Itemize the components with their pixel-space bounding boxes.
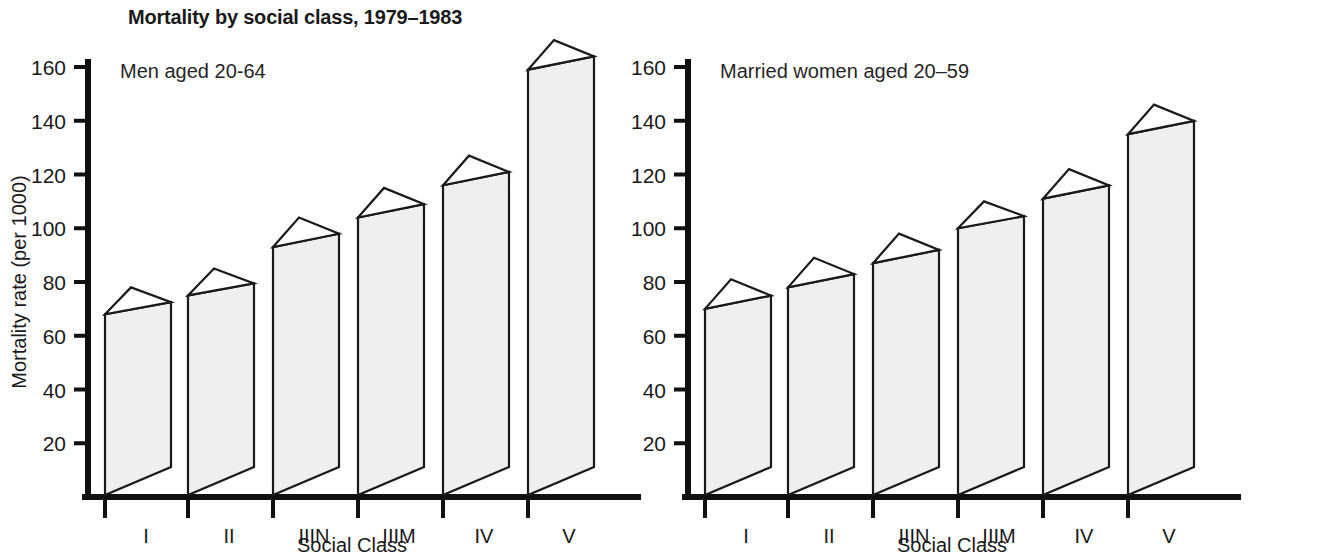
bar-front-face (528, 56, 594, 495)
bar-IV (443, 156, 509, 495)
bar-IIIM (358, 188, 424, 495)
x-axis-title: Social Class (297, 534, 407, 556)
bar-front-face (1043, 185, 1109, 495)
y-tick-label: 80 (43, 271, 66, 294)
y-tick-label: 40 (643, 379, 666, 402)
bar-front-face (105, 302, 171, 495)
bar-II (188, 269, 254, 495)
panel-men: Men aged 20-6416014012010080604020IIIIII… (31, 40, 638, 556)
bar-front-face (958, 216, 1024, 495)
mortality-figure: Mortality by social class, 1979–1983 Men… (0, 0, 1318, 556)
y-tick-label: 140 (31, 110, 66, 133)
x-category-label-I: I (743, 525, 749, 547)
bar-V (528, 40, 594, 495)
bar-front-face (1128, 121, 1194, 495)
y-tick-label: 160 (31, 56, 66, 79)
bar-IIIM (958, 201, 1024, 495)
x-axis-title: Social Class (897, 534, 1007, 556)
y-tick-label: 40 (43, 379, 66, 402)
bar-IIIN (873, 234, 939, 495)
chart-canvas: Men aged 20-6416014012010080604020IIIIII… (0, 0, 1318, 556)
panel-married: Married women aged 20–591601401201008060… (631, 56, 1238, 556)
bar-front-face (873, 250, 939, 495)
bar-front-face (358, 204, 424, 495)
x-category-label-V: V (1162, 525, 1176, 547)
y-tick-label: 20 (643, 432, 666, 455)
y-tick-label: 100 (31, 217, 66, 240)
x-category-label-II: II (223, 525, 234, 547)
bar-IV (1043, 169, 1109, 495)
y-axis-title: Mortality rate (per 1000) (8, 175, 30, 388)
y-tick-label: 140 (631, 110, 666, 133)
x-category-label-I: I (143, 525, 149, 547)
bar-I (705, 279, 771, 495)
y-tick-label: 120 (631, 164, 666, 187)
y-tick-label: 20 (43, 432, 66, 455)
bar-front-face (443, 172, 509, 495)
y-tick-label: 60 (643, 325, 666, 348)
y-tick-label: 60 (43, 325, 66, 348)
bar-IIIN (273, 218, 339, 496)
bar-II (788, 258, 854, 495)
x-category-label-IV: IV (1075, 525, 1095, 547)
y-tick-label: 80 (643, 271, 666, 294)
bar-front-face (705, 296, 771, 495)
x-category-label-V: V (562, 525, 576, 547)
bar-I (105, 287, 171, 495)
bar-front-face (188, 283, 254, 495)
y-tick-label: 160 (631, 56, 666, 79)
bar-V (1128, 105, 1194, 495)
x-category-label-IV: IV (475, 525, 495, 547)
bar-front-face (273, 234, 339, 495)
y-tick-label: 120 (31, 164, 66, 187)
y-tick-label: 100 (631, 217, 666, 240)
figure-title: Mortality by social class, 1979–1983 (128, 6, 462, 29)
bar-front-face (788, 274, 854, 495)
x-category-label-II: II (823, 525, 834, 547)
panel-subtitle: Men aged 20-64 (120, 60, 266, 82)
panel-subtitle: Married women aged 20–59 (720, 60, 969, 82)
